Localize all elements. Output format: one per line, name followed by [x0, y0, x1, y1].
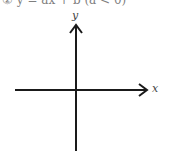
- y-axis-label: y: [72, 9, 78, 22]
- x-axis-label: x: [152, 82, 158, 95]
- x-axis: [15, 84, 147, 96]
- coordinate-axes: [0, 0, 169, 157]
- y-axis: [70, 25, 82, 151]
